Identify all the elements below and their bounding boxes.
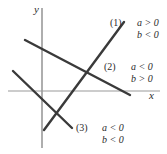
line-2-conditions: a < 0 b > 0 <box>131 61 153 84</box>
line-2-condition-b: b > 0 <box>131 73 153 85</box>
line-3-tag: (3) <box>76 123 88 134</box>
y-axis-label: y <box>34 4 39 16</box>
x-axis-label: x <box>149 90 154 102</box>
line-1-condition-a: a > 0 <box>137 17 159 29</box>
line-3-condition-b: b < 0 <box>102 134 124 146</box>
line-1-conditions: a > 0 b < 0 <box>137 17 159 40</box>
line-1-tag: (1) <box>110 18 122 29</box>
line-2-condition-a: a < 0 <box>131 61 153 73</box>
line-1-condition-b: b < 0 <box>137 29 159 41</box>
line-2-tag: (2) <box>104 62 116 73</box>
line-1 <box>44 22 124 130</box>
line-3-conditions: a < 0 b < 0 <box>102 122 124 145</box>
coordinate-diagram: y x (1) a > 0 b < 0 (2) a < 0 b > 0 (3) … <box>0 0 167 154</box>
line-3-condition-a: a < 0 <box>102 122 124 134</box>
